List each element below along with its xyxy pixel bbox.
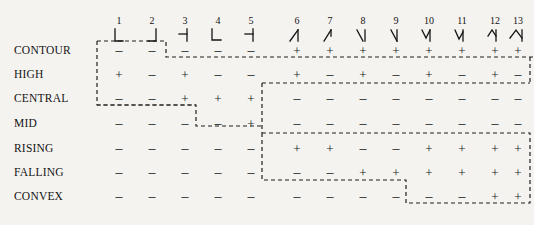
row-label-central: CENTRAL — [14, 92, 106, 105]
cell-high-11: – — [447, 68, 477, 81]
cell-convex-2: – — [137, 190, 167, 203]
column-header-4: 4 — [203, 10, 233, 46]
cell-contour-10: + — [414, 44, 444, 57]
cell-mid-4: – — [203, 117, 233, 130]
cell-contour-1: – — [104, 44, 134, 57]
cell-high-4: – — [203, 68, 233, 81]
column-header-8: 8 — [348, 10, 378, 46]
row-label-mid: MID — [14, 117, 106, 130]
column-number: 9 — [394, 15, 399, 26]
column-number: 4 — [216, 15, 221, 26]
cell-high-5: – — [236, 68, 266, 81]
row-label-high: HIGH — [14, 68, 106, 81]
column-header-9: 9 — [381, 10, 411, 46]
cell-central-3: + — [170, 92, 200, 105]
cell-convex-7: – — [315, 190, 345, 203]
cell-central-1: – — [104, 92, 134, 105]
column-header-6: 6 — [282, 10, 312, 46]
column-header-3: 3 — [170, 10, 200, 46]
feature-matrix-figure: 1 2 3 4 5 6 — [0, 0, 534, 225]
column-number: 11 — [457, 15, 467, 26]
cell-contour-5: – — [236, 44, 266, 57]
cell-convex-11: – — [447, 190, 477, 203]
cell-contour-9: + — [381, 44, 411, 57]
cell-falling-3: – — [170, 166, 200, 179]
cell-rising-11: + — [447, 142, 477, 155]
column-header-7: 7 — [315, 10, 345, 46]
row-label-convex: CONVEX — [14, 190, 106, 203]
cell-high-8: + — [348, 68, 378, 81]
cell-contour-3: – — [170, 44, 200, 57]
cell-convex-3: – — [170, 190, 200, 203]
cell-high-7: – — [315, 68, 345, 81]
cell-rising-2: – — [137, 142, 167, 155]
cell-rising-6: + — [282, 142, 312, 155]
row-label-contour: CONTOUR — [14, 44, 106, 57]
cell-mid-1: – — [104, 117, 134, 130]
cell-rising-7: + — [315, 142, 345, 155]
cell-contour-7: + — [315, 44, 345, 57]
cell-central-5: + — [236, 92, 266, 105]
cell-rising-1: – — [104, 142, 134, 155]
cell-mid-3: – — [170, 117, 200, 130]
column-number: 6 — [295, 15, 300, 26]
cell-mid-9: – — [381, 117, 411, 130]
cell-falling-11: + — [447, 166, 477, 179]
column-number: 10 — [424, 15, 434, 26]
column-header-10: 10 — [414, 10, 444, 46]
cell-central-8: – — [348, 92, 378, 105]
cell-convex-4: – — [203, 190, 233, 203]
cell-central-4: + — [203, 92, 233, 105]
cell-falling-7: – — [315, 166, 345, 179]
row-label-rising: RISING — [14, 142, 106, 155]
column-number: 12 — [490, 15, 500, 26]
column-number: 2 — [150, 15, 155, 26]
cell-rising-10: + — [414, 142, 444, 155]
cell-falling-13: + — [503, 166, 533, 179]
cell-convex-6: – — [282, 190, 312, 203]
cell-contour-6: + — [282, 44, 312, 57]
cell-rising-13: + — [503, 142, 533, 155]
cell-contour-2: – — [137, 44, 167, 57]
cell-central-2: – — [137, 92, 167, 105]
cell-central-13: – — [503, 92, 533, 105]
cell-convex-5: – — [236, 190, 266, 203]
cell-high-2: – — [137, 68, 167, 81]
cell-mid-7: – — [315, 117, 345, 130]
cell-central-7: – — [315, 92, 345, 105]
column-header-1: 1 — [104, 10, 134, 46]
column-number: 7 — [328, 15, 333, 26]
cell-high-10: + — [414, 68, 444, 81]
column-number: 13 — [513, 15, 523, 26]
cell-convex-8: – — [348, 190, 378, 203]
cell-mid-10: – — [414, 117, 444, 130]
cell-central-9: – — [381, 92, 411, 105]
cell-mid-6: – — [282, 117, 312, 130]
cell-rising-4: – — [203, 142, 233, 155]
cell-central-11: – — [447, 92, 477, 105]
cell-contour-8: + — [348, 44, 378, 57]
cell-convex-1: – — [104, 190, 134, 203]
cell-falling-8: + — [348, 166, 378, 179]
cell-falling-9: + — [381, 166, 411, 179]
cell-high-3: + — [170, 68, 200, 81]
cell-mid-11: – — [447, 117, 477, 130]
row-label-falling: FALLING — [14, 166, 106, 179]
cell-rising-5: – — [236, 142, 266, 155]
column-header-2: 2 — [137, 10, 167, 46]
cell-mid-5: + — [236, 117, 266, 130]
column-header-13: 13 — [503, 10, 533, 46]
cell-central-6: – — [282, 92, 312, 105]
cell-high-6: + — [282, 68, 312, 81]
cell-falling-5: – — [236, 166, 266, 179]
column-number: 1 — [117, 15, 122, 26]
cell-contour-4: – — [203, 44, 233, 57]
cell-rising-3: – — [170, 142, 200, 155]
cell-central-10: – — [414, 92, 444, 105]
cell-mid-8: – — [348, 117, 378, 130]
cell-high-1: + — [104, 68, 134, 81]
cell-mid-2: – — [137, 117, 167, 130]
cell-falling-4: – — [203, 166, 233, 179]
cell-falling-10: + — [414, 166, 444, 179]
cell-convex-9: – — [381, 190, 411, 203]
